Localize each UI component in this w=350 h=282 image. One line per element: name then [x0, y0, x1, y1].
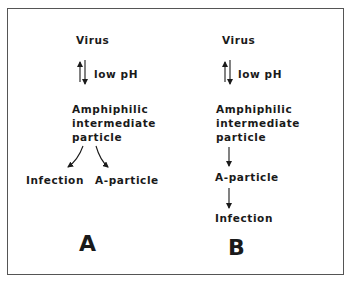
panel-a-arrow-to-infection-icon [68, 146, 83, 167]
arrows-layer [0, 0, 350, 282]
panel-b-equilibrium-arrows-icon [225, 60, 230, 84]
panel-a-arrow-to-a-particle-icon [96, 146, 108, 167]
panel-a-equilibrium-arrows-icon [80, 60, 85, 84]
